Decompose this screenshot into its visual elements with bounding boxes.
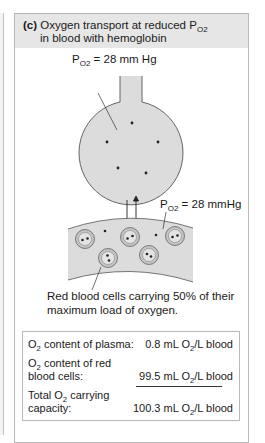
flask — [79, 76, 183, 205]
row-label: O2 content of plasma: — [28, 338, 134, 351]
caption-line1: Red blood cells carrying 50% of their — [47, 289, 247, 303]
row-value: 99.5 mL O2/L blood — [139, 370, 233, 383]
vessel-po2-label: PO2 = 28 mmHg — [160, 198, 241, 210]
row-value: 0.8 mL O2/L blood — [145, 338, 233, 351]
sum-rule — [136, 386, 222, 387]
o2-content-table: O2 content of plasma: 0.8 mL O2/L blood … — [22, 331, 240, 421]
vessel-po2-value: = 28 mmHg — [178, 198, 241, 210]
blood-vessel — [68, 218, 193, 282]
flask-po2-value: = 28 mm Hg — [90, 53, 156, 65]
flask-po2-prefix: P — [72, 53, 80, 65]
flask-po2-label: PO2 = 28 mm Hg — [72, 53, 157, 65]
rbc-caption: Red blood cells carrying 50% of their ma… — [47, 289, 247, 317]
row-label: O2 content of redblood cells: — [28, 357, 111, 382]
caption-line2: maximum load of oxygen. — [47, 303, 247, 317]
row-label: Total O2 carryingcapacity: — [28, 389, 109, 414]
row-value: 100.3 mL O2/L blood — [133, 402, 233, 415]
vessel-po2-prefix: P — [160, 198, 168, 210]
flask-po2-sub: O2 — [80, 59, 91, 68]
vessel-po2-sub: O2 — [168, 204, 179, 213]
